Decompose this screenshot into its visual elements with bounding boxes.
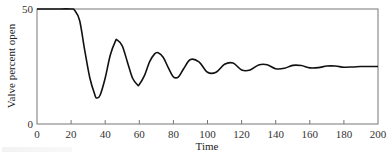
valve-percent-line [37,9,378,98]
x-tick-label: 40 [100,128,112,140]
x-tick-label: 140 [267,128,284,140]
y-tick-label: 50 [22,3,34,15]
x-tick-label: 60 [134,128,146,140]
x-tick-label: 20 [66,128,78,140]
x-tick-label: 160 [302,128,319,140]
y-axis-label: Valve percent open [5,23,17,108]
x-tick-label: 0 [34,128,40,140]
x-tick-label: 200 [370,128,387,140]
x-tick-label: 180 [336,128,353,140]
y-axis-ticks: 050 [22,3,34,130]
x-tick-label: 120 [233,128,250,140]
x-tick-label: 80 [168,128,180,140]
x-axis-label: Time [196,140,219,152]
x-tick-label: 100 [199,128,216,140]
chart: 020406080100120140160180200 050 Time Val… [0,0,391,157]
x-axis-ticks: 020406080100120140160180200 [34,120,387,140]
y-tick-label: 0 [28,118,34,130]
figure-caption-faint [2,147,72,152]
